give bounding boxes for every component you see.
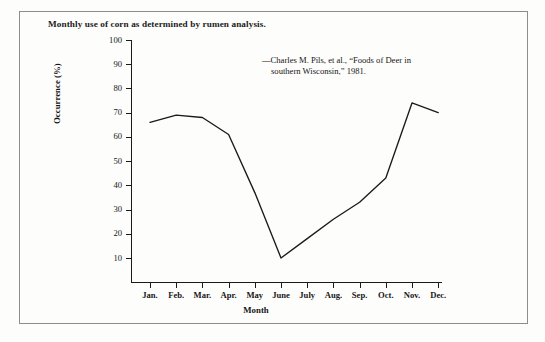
chart-figure: Monthly use of corn as determined by rum…: [0, 0, 545, 342]
plot-area: 102030405060708090100 Jan.Feb.Mar.Apr.Ma…: [0, 0, 545, 342]
data-series-line: [0, 0, 545, 342]
x-axis-title: Month: [243, 305, 268, 315]
y-axis-title: Occurrence (%): [52, 63, 62, 124]
